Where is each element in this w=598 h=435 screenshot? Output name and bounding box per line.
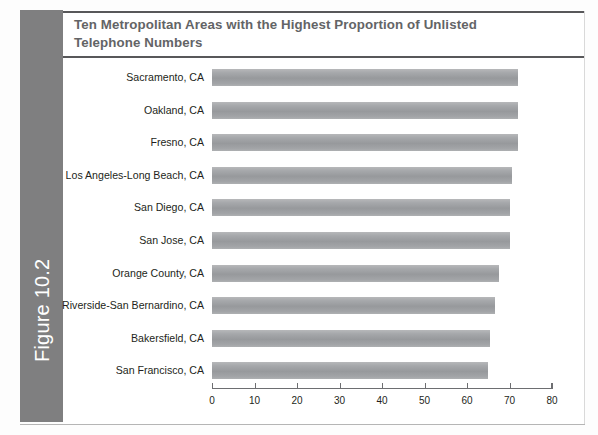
category-label: San Jose, CA [0,232,212,249]
bar-row: Orange County, CA [212,265,552,298]
bar [212,134,518,151]
x-axis-tick-label: 70 [490,395,530,407]
bar-row: Sacramento, CA [212,69,552,102]
category-label: San Diego, CA [0,199,212,216]
category-label: San Francisco, CA [0,362,212,379]
x-axis-tick-label: 0 [192,395,232,407]
x-axis-tick-label: 50 [405,395,445,407]
x-axis-tick [425,383,426,389]
category-label: Fresno, CA [0,134,212,151]
bar [212,232,510,249]
bar-row: San Diego, CA [212,199,552,232]
bar-row: San Francisco, CA [212,362,552,395]
x-axis-tick-label: 10 [235,395,275,407]
x-axis-tick [382,383,383,389]
bar [212,362,488,379]
x-axis-tick [297,383,298,389]
x-axis-tick [255,383,256,389]
category-label: Oakland, CA [0,102,212,119]
title-rule-top [63,11,585,13]
x-axis-tick-label: 20 [277,395,317,407]
x-axis-tick-label: 60 [447,395,487,407]
bar [212,69,518,86]
bar-row: San Jose, CA [212,232,552,265]
x-axis-tick [552,383,553,389]
figure-block: Figure 10.2 Ten Metropolitan Areas with … [0,0,598,435]
bar [212,199,510,216]
bar [212,265,499,282]
bar [212,102,518,119]
x-axis-tick [467,383,468,389]
x-axis-tick [510,383,511,389]
bar-row: Riverside-San Bernardino, CA [212,297,552,330]
category-label: Bakersfield, CA [0,330,212,347]
category-label: Los Angeles-Long Beach, CA [0,167,212,184]
x-axis-tick [340,383,341,389]
category-label: Riverside-San Bernardino, CA [0,297,212,314]
x-axis-tick [212,383,213,389]
bar-row: Oakland, CA [212,102,552,135]
figure-title: Ten Metropolitan Areas with the Highest … [74,16,544,52]
bar-row: Los Angeles-Long Beach, CA [212,167,552,200]
bar-row: Fresno, CA [212,134,552,167]
x-axis-tick-label: 40 [362,395,402,407]
bar-chart: Sacramento, CAOakland, CAFresno, CALos A… [63,58,585,425]
category-label: Orange County, CA [0,265,212,282]
bar [212,297,495,314]
bar [212,167,512,184]
category-label: Sacramento, CA [0,69,212,86]
x-axis-tick-label: 80 [532,395,572,407]
x-axis-tick-label: 30 [320,395,360,407]
bar-row: Bakersfield, CA [212,330,552,363]
plot-area: Sacramento, CAOakland, CAFresno, CALos A… [212,63,552,393]
bar [212,330,490,347]
